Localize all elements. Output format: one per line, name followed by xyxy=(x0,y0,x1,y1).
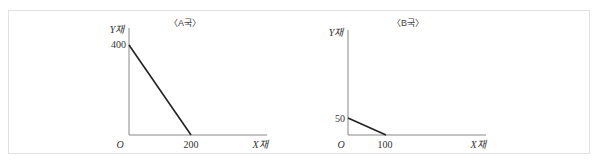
chart-a-title: 〈A국〉 xyxy=(169,18,201,28)
chart-a-y-tick: 400 xyxy=(111,39,126,50)
chart-a: 〈A국〉 Y재 400 O 200 X재 xyxy=(110,18,270,150)
chart-b-x-axis-label: X재 xyxy=(469,139,487,150)
chart-b-x-tick: 100 xyxy=(378,139,393,150)
chart-a-y-axis-label: Y재 xyxy=(110,24,127,35)
chart-b-origin-label: O xyxy=(337,139,344,150)
chart-b-ppf-line xyxy=(348,118,386,135)
chart-b-y-axis-label: Y재 xyxy=(329,27,346,38)
chart-b-title: 〈B국〉 xyxy=(392,18,424,28)
chart-b: 〈B국〉 Y재 50 O 100 X재 xyxy=(329,18,488,150)
chart-a-x-axis-label: X재 xyxy=(251,139,269,150)
chart-b-y-tick: 50 xyxy=(335,113,345,124)
ppf-charts: 〈A국〉 Y재 400 O 200 X재 〈B국〉 Y재 50 O 100 X재 xyxy=(0,0,595,163)
chart-a-x-tick: 200 xyxy=(184,139,199,150)
chart-a-ppf-line xyxy=(129,45,191,135)
chart-a-origin-label: O xyxy=(116,139,123,150)
